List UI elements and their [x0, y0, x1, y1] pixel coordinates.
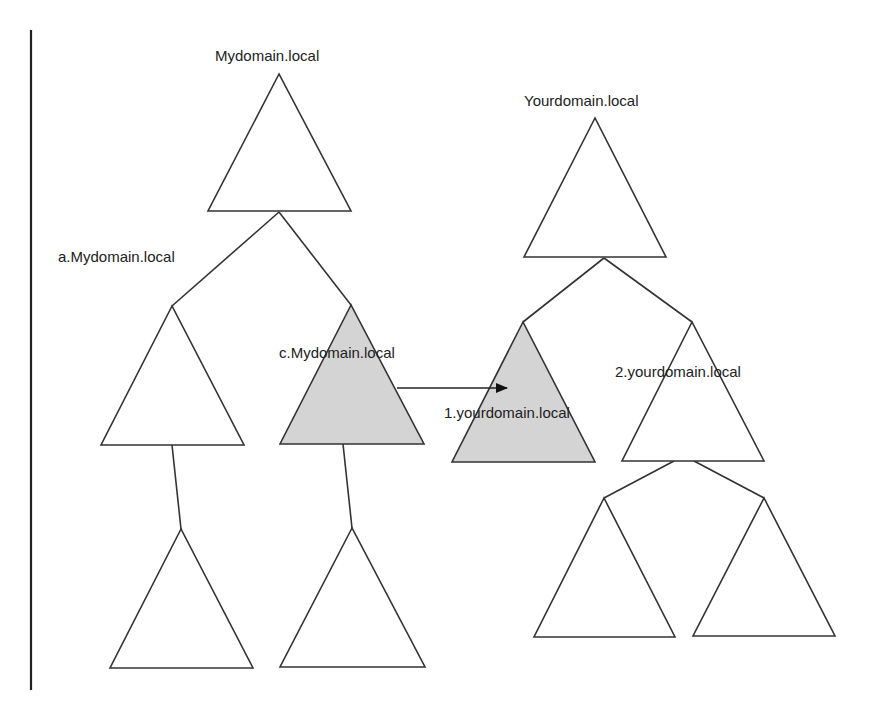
edge-yourdomain-to-1 — [523, 258, 604, 322]
edge-yourdomain-to-2 — [604, 258, 692, 322]
c-child-triangle — [280, 528, 425, 667]
edge-mydomain-to-c — [279, 212, 351, 305]
a-child-triangle — [110, 529, 253, 668]
2-left-child-triangle — [534, 498, 675, 637]
edge-2-to-left-child — [604, 461, 674, 498]
edge-c-to-child — [343, 444, 352, 528]
label-a-mydomain: a.Mydomain.local — [58, 248, 175, 265]
2-yourdomain-triangle — [622, 322, 764, 461]
label-2-yourdomain: 2.yourdomain.local — [615, 363, 741, 380]
domain-trust-diagram: Mydomain.local a.Mydomain.local c.Mydoma… — [0, 0, 873, 705]
label-yourdomain: Yourdomain.local — [524, 92, 639, 109]
1-yourdomain-triangle — [452, 322, 595, 462]
label-c-mydomain: c.Mydomain.local — [279, 344, 395, 361]
edge-a-to-child — [172, 445, 181, 529]
label-mydomain: Mydomain.local — [215, 47, 319, 64]
a-mydomain-triangle — [101, 306, 244, 445]
2-right-child-triangle — [693, 498, 835, 636]
c-mydomain-triangle — [280, 305, 424, 444]
yourdomain-triangle — [524, 118, 666, 257]
edge-2-to-right-child — [694, 461, 764, 498]
label-1-yourdomain: 1.yourdomain.local — [444, 404, 570, 421]
edge-mydomain-to-a — [172, 212, 279, 306]
mydomain-triangle — [208, 74, 351, 211]
